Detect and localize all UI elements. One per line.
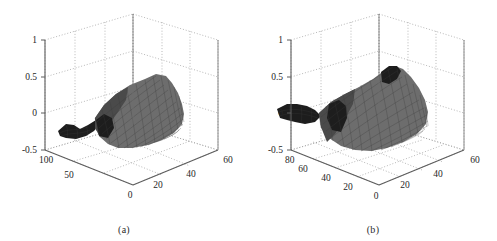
y-tick-label: 50 [64, 170, 74, 180]
x-tick-label: 40 [186, 169, 196, 179]
z-tick-label: 1 [278, 35, 283, 45]
z-tick-label: 0.5 [271, 72, 283, 82]
mesh-surface-a [58, 74, 184, 148]
z-tick-label: -0.5 [22, 145, 37, 155]
figure-two-surface-plots: 1 0.5 0 -0.5 100 50 0 20 40 60 (a) [0, 0, 497, 241]
y-tick-label: 0 [374, 191, 379, 201]
z-tick-label: 0 [32, 108, 37, 118]
x-tick-label: 40 [433, 169, 443, 179]
z-axis-ticks-a: 1 0.5 0 -0.5 [22, 35, 45, 155]
y-tick-label: 40 [321, 173, 331, 183]
plot-panel-a: 1 0.5 0 -0.5 100 50 0 20 40 60 (a) [0, 0, 248, 241]
z-tick-label: 1 [32, 35, 37, 45]
y-tick-label: 0 [128, 190, 133, 200]
y-axis-ticks-b: 80 60 40 20 0 [285, 155, 379, 201]
surface-plot-b: 1 0.5 0 -0.5 80 60 40 20 0 20 40 60 [249, 0, 497, 241]
x-tick-label: 20 [153, 180, 163, 190]
surface-plot-a: 1 0.5 0 -0.5 100 50 0 20 40 60 [0, 0, 248, 241]
panel-caption-b: (b) [249, 224, 497, 235]
z-axis-ticks-b: 1 0.5 0 -0.5 [268, 35, 291, 155]
mesh-surface-b [277, 66, 428, 151]
y-tick-label: 20 [343, 182, 353, 192]
y-axis-ticks-a: 100 50 0 [39, 155, 133, 200]
z-tick-label: 0.5 [25, 72, 37, 82]
y-tick-label: 60 [298, 164, 308, 174]
x-tick-label: 60 [223, 155, 233, 165]
plot-panel-b: 1 0.5 0 -0.5 80 60 40 20 0 20 40 60 (b) [249, 0, 497, 241]
z-tick-label: 0 [278, 108, 283, 118]
x-tick-label: 60 [470, 155, 480, 165]
y-tick-label: 80 [285, 155, 295, 165]
x-tick-label: 20 [400, 180, 410, 190]
panel-caption-a: (a) [0, 224, 248, 235]
z-tick-label: -0.5 [268, 145, 283, 155]
y-tick-label: 100 [39, 155, 54, 165]
